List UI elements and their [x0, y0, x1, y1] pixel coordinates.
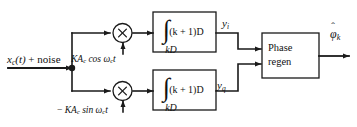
carrier-inphase-label: KAc cos ωct — [71, 55, 116, 65]
phase-regen-line1: Phase — [268, 41, 293, 55]
input-signal-label: xc(t) + noise — [7, 54, 61, 66]
integral-lower-limit-i: kD — [165, 44, 177, 55]
output-yi-label: yi — [222, 18, 229, 30]
integrator-q-expression: ∫(k + 1)DkD — [163, 78, 170, 99]
final-output-label: ˆφk — [330, 28, 340, 42]
phase-regen-label: Phase regen — [268, 41, 293, 69]
carrier-quadrature-label: − KAc sin ωct — [57, 106, 108, 116]
integral-lower-limit-q: kD — [165, 102, 177, 113]
integrator-i-expression: ∫(k + 1)DkD — [163, 20, 170, 41]
hat-accent: ˆ — [331, 21, 335, 32]
yi-wire — [216, 33, 261, 49]
output-yq-label: yq — [217, 80, 226, 92]
integral-upper-limit-i: (k + 1)D — [169, 26, 204, 37]
block-diagram-figure: xc(t) + noise KAc cos ωct − KAc sin ωct … — [0, 0, 357, 127]
phase-regen-line2: regen — [268, 55, 293, 69]
multiplier-cross-glyphs — [119, 29, 127, 95]
branch-junction-dot — [69, 65, 75, 71]
integral-upper-limit-q: (k + 1)D — [169, 84, 204, 95]
